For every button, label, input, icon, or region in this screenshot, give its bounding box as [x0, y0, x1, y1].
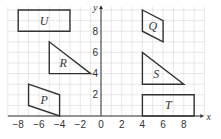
x-tick-label: 0	[98, 119, 104, 130]
x-axis-label: x	[206, 111, 212, 122]
y-axis-arrow-icon	[99, 5, 103, 9]
x-tick-label: 4	[140, 119, 146, 130]
y-tick-label: 4	[92, 68, 98, 79]
x-tick-label: 8	[181, 119, 187, 130]
x-tick-label: 6	[160, 119, 166, 130]
axes: xy	[8, 2, 212, 122]
x-tick-label: −4	[54, 119, 66, 130]
grid-lines	[8, 7, 205, 116]
shape-label: Q	[148, 19, 157, 33]
y-axis-label: y	[92, 2, 98, 13]
y-tick-label: 6	[92, 47, 98, 58]
shape-p: P	[29, 84, 60, 116]
shape-label: S	[153, 67, 159, 81]
shape-label: R	[58, 56, 67, 70]
x-tick-label: −2	[75, 119, 87, 130]
y-tick-label: 2	[92, 89, 98, 100]
x-axis-arrow-icon	[200, 114, 204, 118]
shape-label: U	[40, 14, 50, 28]
x-tick-label: −8	[12, 119, 24, 130]
x-tick-label: 2	[119, 119, 125, 130]
shape-label: P	[39, 93, 48, 107]
shape-q: Q	[142, 10, 163, 42]
y-tick-label: 8	[92, 26, 98, 37]
x-tick-label: −6	[33, 119, 45, 130]
coordinate-grid: xy −8−6−4−2024682468 UQRSPT	[0, 0, 221, 139]
